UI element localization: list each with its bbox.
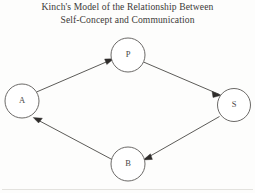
kinch-model-diagram: A P S B [0,0,255,193]
node-a[interactable]: A [5,84,39,118]
node-b[interactable]: B [111,147,145,181]
edge-b-to-a [33,118,112,160]
node-p[interactable]: P [111,38,145,72]
node-a-label: A [19,95,26,105]
edge-a-to-p-line [37,60,113,93]
edge-p-to-s-line [144,62,220,95]
edge-p-to-s [144,62,222,98]
node-s[interactable]: S [218,89,251,122]
node-b-label: B [125,158,131,168]
edge-s-to-b-line [145,117,220,160]
edge-s-to-b [143,117,219,161]
diagram-page: Kinch's Model of the Relationship Betwee… [0,0,255,193]
edge-b-to-a-line [35,119,112,160]
node-s-label: S [232,99,237,109]
edge-a-to-p [37,59,114,92]
node-p-label: P [126,49,131,59]
